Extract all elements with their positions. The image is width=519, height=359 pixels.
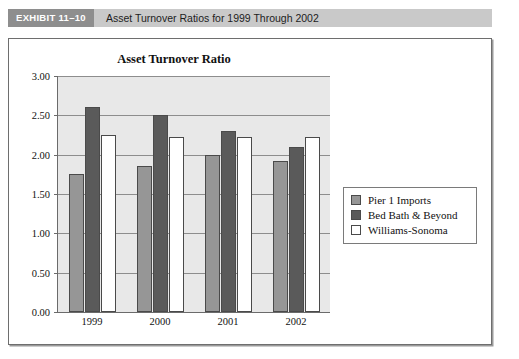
bar bbox=[221, 131, 236, 312]
y-axis-tick-label: 0.50 bbox=[32, 267, 50, 278]
bar-group bbox=[69, 76, 116, 312]
exhibit-header: EXHIBIT 11–10 Asset Turnover Ratios for … bbox=[8, 9, 492, 27]
legend-label: Pier 1 Imports bbox=[368, 194, 431, 206]
bar bbox=[85, 107, 100, 312]
x-axis-tick-label: 2001 bbox=[218, 316, 239, 327]
bar bbox=[101, 135, 116, 312]
legend-item: Pier 1 Imports bbox=[351, 194, 469, 206]
chart-legend: Pier 1 ImportsBed Bath & BeyondWilliams-… bbox=[343, 187, 477, 244]
chart-frame: Asset Turnover Ratio 0.000.501.001.502.0… bbox=[8, 38, 492, 345]
legend-swatch-icon bbox=[351, 210, 361, 220]
bar bbox=[69, 174, 84, 312]
x-axis-tick-label: 1999 bbox=[82, 316, 103, 327]
bar-group bbox=[137, 76, 184, 312]
bar-group bbox=[205, 76, 252, 312]
x-axis-tick-label: 2002 bbox=[286, 316, 307, 327]
bar bbox=[137, 166, 152, 312]
legend-swatch-icon bbox=[351, 225, 361, 235]
exhibit-number-badge: EXHIBIT 11–10 bbox=[8, 9, 94, 27]
legend-swatch-icon bbox=[351, 195, 361, 205]
x-axis-tick-label: 2000 bbox=[150, 316, 171, 327]
bar-group bbox=[273, 76, 320, 312]
bars-layer bbox=[58, 76, 330, 312]
y-axis-tick-label: 2.50 bbox=[32, 110, 50, 121]
bar bbox=[205, 155, 220, 312]
legend-label: Williams-Sonoma bbox=[368, 224, 448, 236]
y-axis-tick bbox=[54, 312, 58, 313]
bar bbox=[305, 137, 320, 312]
y-axis-tick-label: 0.00 bbox=[32, 307, 50, 318]
bar bbox=[237, 137, 252, 312]
bar bbox=[273, 161, 288, 312]
chart-title: Asset Turnover Ratio bbox=[9, 52, 339, 67]
legend-item: Williams-Sonoma bbox=[351, 224, 469, 236]
exhibit-title: Asset Turnover Ratios for 1999 Through 2… bbox=[106, 12, 319, 24]
bar bbox=[289, 147, 304, 312]
bar bbox=[169, 137, 184, 312]
plot-area: 0.000.501.001.502.002.503.00 19992000200… bbox=[57, 76, 330, 313]
y-axis-tick-label: 2.00 bbox=[32, 149, 50, 160]
y-axis-tick-label: 1.00 bbox=[32, 228, 50, 239]
legend-item: Bed Bath & Beyond bbox=[351, 209, 469, 221]
y-axis-tick-label: 3.00 bbox=[32, 71, 50, 82]
y-axis-tick-label: 1.50 bbox=[32, 189, 50, 200]
legend-label: Bed Bath & Beyond bbox=[368, 209, 458, 221]
bar bbox=[153, 115, 168, 312]
